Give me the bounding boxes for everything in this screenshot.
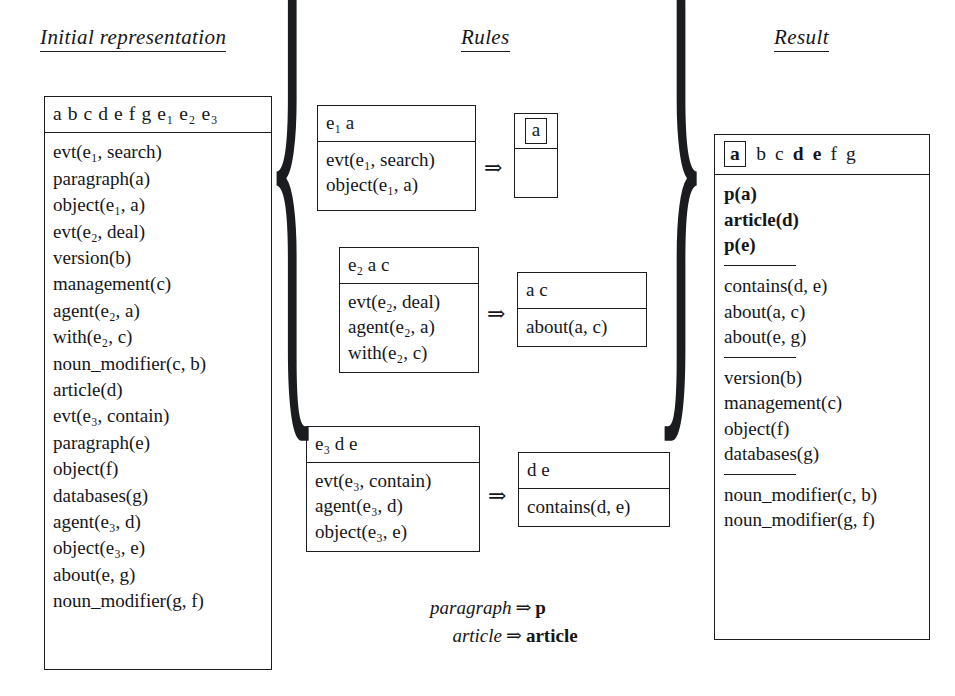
initial-fact-line: paragraph(e) xyxy=(53,430,263,456)
lexicon-implies-arrow-icon: ⇒ xyxy=(511,597,535,618)
initial-fact-line: noun_modifier(g, f) xyxy=(53,588,263,614)
result-variable-list: a b c d e f g xyxy=(715,135,929,175)
heading-rules: Rules xyxy=(461,26,510,52)
lexicon-mapping-article: article⇒article xyxy=(306,622,670,650)
result-fact-line: article(d) xyxy=(724,207,920,233)
rule-1-rhs-boxed-token: a xyxy=(525,118,547,144)
rule-1-implies-arrow-icon: ⇒ xyxy=(484,157,502,179)
initial-fact-line: article(d) xyxy=(53,377,263,403)
result-variable-c: c xyxy=(775,143,786,164)
initial-fact-list: evt(e₁, search)paragraph(a)object(e₁, a)… xyxy=(45,133,271,621)
rule-3-lhs-line: agent(e₃, d) xyxy=(315,493,471,519)
initial-fact-line: agent(e₂, a) xyxy=(53,298,263,324)
result-fact-line: about(a, c) xyxy=(724,299,920,325)
rule-1-lhs-head: e₁ a xyxy=(318,106,475,142)
initial-fact-line: object(f) xyxy=(53,456,263,482)
result-variable-f: f xyxy=(831,143,840,164)
lexicon-implies-arrow-icon: ⇒ xyxy=(502,625,526,646)
result-fact-line: noun_modifier(g, f) xyxy=(724,507,920,533)
result-fact-line: p(e) xyxy=(724,232,920,258)
lexicon-target-term: article xyxy=(526,625,578,646)
rule-1-lhs-panel: e₁ a evt(e₁, search)object(e₁, a) xyxy=(317,105,476,211)
result-group-separator xyxy=(724,357,796,358)
rule-3-lhs-panel: e₃ d e evt(e₃, contain)agent(e₃, d)objec… xyxy=(306,426,480,552)
result-fact-line: p(a) xyxy=(724,181,920,207)
initial-fact-line: management(c) xyxy=(53,271,263,297)
rule-3-rhs-line: contains(d, e) xyxy=(527,494,661,520)
initial-fact-line: version(b) xyxy=(53,245,263,271)
rule-1-rhs-panel: a xyxy=(514,113,558,198)
initial-fact-line: databases(g) xyxy=(53,483,263,509)
initial-fact-line: about(e, g) xyxy=(53,562,263,588)
rule-3-lhs-line: object(e₃, e) xyxy=(315,519,471,545)
rule-3-lhs-head: e₃ d e xyxy=(307,427,479,463)
initial-fact-line: evt(e₂, deal) xyxy=(53,219,263,245)
rule-2-lhs-line: agent(e₂, a) xyxy=(348,314,470,340)
lexicon-mapping-list: paragraph⇒particle⇒article xyxy=(306,594,670,649)
rule-3-rhs-head: d e xyxy=(519,453,669,489)
result-variable-g: g xyxy=(846,143,858,164)
initial-fact-line: agent(e₃, d) xyxy=(53,509,263,535)
rule-3-rhs-panel: d e contains(d, e) xyxy=(518,452,670,527)
initial-fact-line: object(e₃, e) xyxy=(53,535,263,561)
rule-1-lhs-line: object(e₁, a) xyxy=(326,172,467,198)
rule-2-rhs-head: a c xyxy=(518,273,646,309)
result-fact-line: noun_modifier(c, b) xyxy=(724,482,920,508)
rule-2-lhs-panel: e₂ a c evt(e₂, deal)agent(e₂, a)with(e₂,… xyxy=(339,247,479,373)
initial-fact-line: paragraph(a) xyxy=(53,166,263,192)
right-curly-brace-icon: } xyxy=(655,0,707,459)
result-fact-line: contains(d, e) xyxy=(724,273,920,299)
rule-1-rhs-head: a xyxy=(515,114,557,149)
lexicon-source-term: paragraph xyxy=(430,597,511,618)
initial-representation-panel: a b c d e f g e₁ e₂ e₃ evt(e₁, search)pa… xyxy=(44,96,272,670)
result-group-separator xyxy=(724,474,796,475)
rule-1-lhs-body: evt(e₁, search)object(e₁, a) xyxy=(318,142,475,210)
rule-2-rhs-body: about(a, c) xyxy=(518,309,646,347)
rule-1-rhs-body xyxy=(515,149,557,197)
lexicon-mapping-paragraph: paragraph⇒p xyxy=(306,594,670,622)
left-curly-brace-icon: { xyxy=(267,0,319,459)
result-variable-e: e xyxy=(813,143,824,164)
result-panel: a b c d e f g p(a)article(d)p(e)contains… xyxy=(714,134,930,640)
result-fact-line: databases(g) xyxy=(724,441,920,467)
rule-2-rhs-panel: a c about(a, c) xyxy=(517,272,647,347)
initial-variable-list: a b c d e f g e₁ e₂ e₃ xyxy=(45,97,271,133)
rule-2-lhs-line: with(e₂, c) xyxy=(348,340,470,366)
initial-fact-line: object(e₁, a) xyxy=(53,192,263,218)
result-fact-groups: p(a)article(d)p(e)contains(d, e)about(a,… xyxy=(715,175,929,540)
rule-1-lhs-line: evt(e₁, search) xyxy=(326,147,467,173)
lexicon-target-term: p xyxy=(535,597,546,618)
initial-fact-line: with(e₂, c) xyxy=(53,324,263,350)
rule-2-lhs-head: e₂ a c xyxy=(340,248,478,284)
rule-2-lhs-line: evt(e₂, deal) xyxy=(348,289,470,315)
initial-fact-line: evt(e₁, search) xyxy=(53,139,263,165)
heading-initial-representation: Initial representation xyxy=(40,26,226,52)
rule-2-implies-arrow-icon: ⇒ xyxy=(487,303,505,325)
rule-2-lhs-body: evt(e₂, deal)agent(e₂, a)with(e₂, c) xyxy=(340,284,478,373)
rule-3-implies-arrow-icon: ⇒ xyxy=(488,485,506,507)
result-fact-line: object(f) xyxy=(724,416,920,442)
result-group-separator xyxy=(724,265,796,266)
result-variable-a: a xyxy=(724,141,746,167)
result-variable-b: b xyxy=(756,143,768,164)
lexicon-source-term: article xyxy=(452,625,502,646)
result-fact-line: version(b) xyxy=(724,365,920,391)
initial-fact-line: noun_modifier(c, b) xyxy=(53,351,263,377)
rule-3-rhs-body: contains(d, e) xyxy=(519,489,669,527)
result-variable-d: d xyxy=(793,143,806,164)
result-fact-line: management(c) xyxy=(724,390,920,416)
rule-3-lhs-line: evt(e₃, contain) xyxy=(315,468,471,494)
rule-2-rhs-line: about(a, c) xyxy=(526,314,638,340)
heading-result: Result xyxy=(774,26,829,52)
result-fact-line: about(e, g) xyxy=(724,324,920,350)
rule-3-lhs-body: evt(e₃, contain)agent(e₃, d)object(e₃, e… xyxy=(307,463,479,552)
initial-fact-line: evt(e₃, contain) xyxy=(53,403,263,429)
